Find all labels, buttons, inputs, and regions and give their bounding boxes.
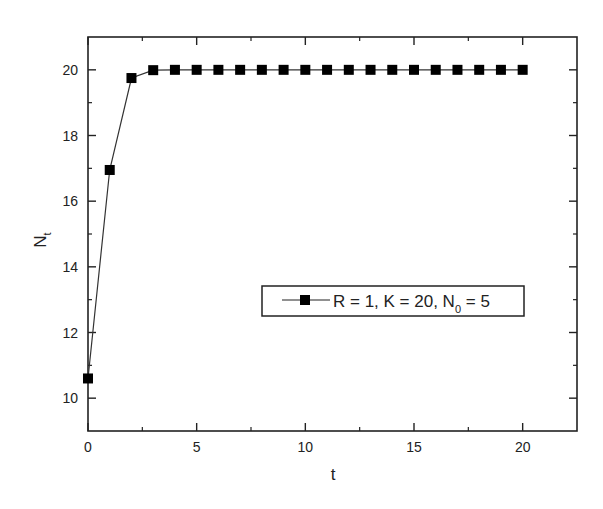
y-tick-label: 12 bbox=[62, 325, 78, 341]
y-tick-label: 14 bbox=[62, 259, 78, 275]
data-point-square-icon bbox=[366, 65, 376, 75]
y-tick-label: 10 bbox=[62, 390, 78, 406]
data-point-square-icon bbox=[148, 65, 158, 75]
data-point-square-icon bbox=[126, 73, 136, 83]
data-point-square-icon bbox=[105, 165, 115, 175]
x-tick-label: 0 bbox=[84, 439, 92, 455]
data-point-square-icon bbox=[496, 65, 506, 75]
series-line bbox=[88, 70, 523, 379]
svg-text:Nt: Nt bbox=[31, 232, 53, 247]
data-point-square-icon bbox=[344, 65, 354, 75]
data-point-square-icon bbox=[322, 65, 332, 75]
data-point-square-icon bbox=[213, 65, 223, 75]
data-point-square-icon bbox=[300, 65, 310, 75]
data-point-square-icon bbox=[409, 65, 419, 75]
x-axis-label: t bbox=[331, 465, 336, 484]
y-tick-label: 20 bbox=[62, 62, 78, 78]
data-point-square-icon bbox=[452, 65, 462, 75]
data-point-square-icon bbox=[279, 65, 289, 75]
data-point-square-icon bbox=[518, 65, 528, 75]
x-tick-label: 15 bbox=[406, 439, 422, 455]
plot-area bbox=[88, 37, 577, 431]
data-point-square-icon bbox=[235, 65, 245, 75]
legend: R = 1, K = 20, N0 = 5 bbox=[262, 286, 524, 316]
y-tick-label: 18 bbox=[62, 128, 78, 144]
legend-marker-square-icon bbox=[300, 295, 310, 305]
data-series bbox=[83, 65, 528, 384]
data-point-square-icon bbox=[192, 65, 202, 75]
plot-frame bbox=[88, 37, 577, 431]
x-axis: 05101520 bbox=[84, 37, 531, 455]
x-tick-label: 10 bbox=[298, 439, 314, 455]
data-point-square-icon bbox=[170, 65, 180, 75]
y-tick-label: 16 bbox=[62, 193, 78, 209]
x-tick-label: 20 bbox=[515, 439, 531, 455]
y-axis-label: Nt bbox=[31, 232, 53, 247]
x-tick-label: 5 bbox=[193, 439, 201, 455]
data-point-square-icon bbox=[387, 65, 397, 75]
data-point-square-icon bbox=[431, 65, 441, 75]
data-point-square-icon bbox=[257, 65, 267, 75]
data-point-square-icon bbox=[474, 65, 484, 75]
data-point-square-icon bbox=[83, 373, 93, 383]
y-axis: 101214161820 bbox=[62, 62, 577, 406]
chart: 05101520 101214161820 t Nt R = 1, K = 20… bbox=[0, 0, 603, 509]
